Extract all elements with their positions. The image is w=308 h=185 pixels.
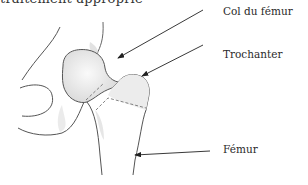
label-trochanter: Trochanter [223, 48, 282, 60]
femur-illustration [0, 0, 308, 185]
label-femur: Fémur [223, 143, 258, 155]
femur-arrow [135, 151, 210, 155]
col-arrow [118, 10, 203, 58]
label-col-du-femur: Col du fémur [223, 5, 293, 17]
trochanter-arrow [142, 45, 203, 76]
